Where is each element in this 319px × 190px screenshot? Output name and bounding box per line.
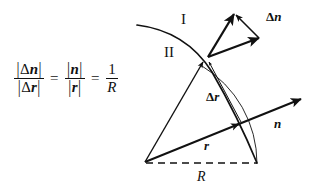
curvature-diagram	[0, 0, 319, 190]
vector-n-translated	[208, 38, 259, 57]
radius-vector-left	[145, 62, 203, 162]
label-region-two: II	[164, 45, 174, 60]
label-region-one: I	[181, 12, 186, 27]
delta-symbol: Δ	[266, 9, 274, 24]
vector-n-prime	[208, 14, 234, 57]
label-radius-R: R	[197, 170, 206, 184]
vector-n-lower	[234, 99, 301, 126]
vector-r-symbol: r	[214, 89, 219, 104]
vector-n-symbol: n	[274, 9, 281, 24]
vector-r	[145, 124, 239, 162]
radius-arc	[202, 66, 257, 163]
label-delta-n: Δn	[266, 10, 281, 23]
label-vector-n: n	[274, 117, 281, 130]
label-vector-r: r	[204, 139, 209, 152]
vector-delta-n	[236, 15, 259, 38]
label-delta-r: Δr	[206, 90, 219, 103]
delta-symbol: Δ	[206, 89, 214, 104]
